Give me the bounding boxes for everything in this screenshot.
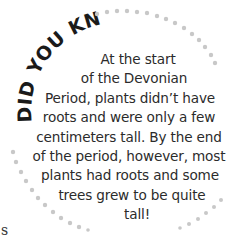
fact-line: of the period, however, most	[24, 147, 227, 166]
fact-line: plants had roots and some	[26, 166, 227, 185]
fact-line: tall!	[40, 205, 227, 224]
page-text-fragment: s	[1, 222, 8, 238]
fact-line: centimeters tall. By the end	[24, 128, 227, 147]
fact-line: roots and were only a few	[24, 108, 227, 127]
fact-line: trees grew to be quite	[30, 186, 227, 205]
fact-text: At the start of the Devonian Period, pla…	[20, 50, 227, 225]
fact-line: At the start	[42, 50, 227, 69]
fact-line: of the Devonian	[34, 69, 227, 88]
did-you-know-callout: DID YOU KNOW? At the start of the Devoni…	[0, 0, 227, 240]
fact-line: Period, plants didn’t have	[26, 89, 227, 108]
